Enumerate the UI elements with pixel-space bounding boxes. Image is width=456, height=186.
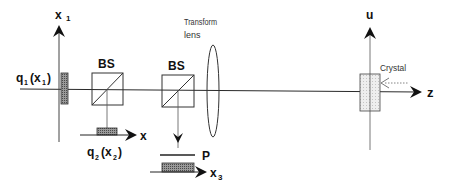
q1-argument: (x	[30, 71, 41, 85]
beam-splitter-2: BS	[162, 59, 194, 148]
polarizer-label: P	[202, 149, 210, 163]
z-axis-label: z	[427, 85, 434, 100]
polarizer: P	[160, 149, 210, 163]
transform-lens: Transform lens	[184, 17, 219, 137]
u-axis-label: u	[366, 8, 373, 22]
x1-axis-label: x	[55, 8, 62, 22]
q1-close-paren: )	[47, 71, 51, 85]
q1-label: q	[16, 71, 23, 85]
lens-label-line2: lens	[184, 30, 201, 40]
optical-setup-diagram: z x 1 q 1 (x 1 ) BS x q 2 (x 2 )	[0, 0, 456, 186]
detector-q3: x 3	[150, 163, 223, 182]
bs2-label: BS	[168, 59, 185, 73]
beam-splitter-1: BS	[92, 57, 123, 128]
detector-q1: q 1 (x 1 )	[16, 71, 68, 104]
lens-label-line1: Transform	[184, 17, 217, 27]
crystal: Crystal	[360, 63, 409, 111]
q2-argument: (x	[101, 145, 112, 159]
x1-axis-subscript: 1	[66, 14, 71, 23]
crystal-label: Crystal	[380, 63, 406, 73]
q2-close-paren: )	[118, 145, 122, 159]
q1-arg-subscript: 1	[42, 79, 46, 86]
bs1-label: BS	[98, 57, 115, 71]
detector-q2: x q 2 (x 2 )	[80, 128, 147, 161]
q2-arg-subscript: 2	[113, 154, 117, 161]
x-axis-label: x	[140, 129, 147, 143]
q2-label: q	[87, 145, 94, 159]
x3-axis-subscript: 3	[218, 173, 223, 182]
q1-subscript: 1	[24, 79, 28, 86]
q2-subscript: 2	[95, 154, 99, 161]
x3-axis-label: x	[210, 166, 217, 180]
